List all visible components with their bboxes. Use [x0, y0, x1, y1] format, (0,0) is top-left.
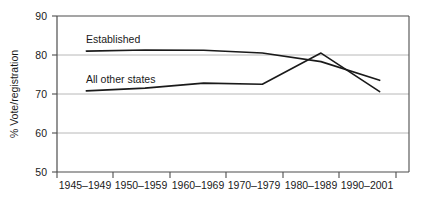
y-label-90: 90: [35, 10, 47, 22]
y-label-80: 80: [35, 49, 47, 61]
x-label-1980-1989: 1980–1989: [285, 179, 338, 191]
y-label-60: 60: [35, 127, 47, 139]
y-label-50: 50: [35, 166, 47, 178]
y-label-70: 70: [35, 88, 47, 100]
series-annotation-all-other-states: All other states: [86, 73, 155, 85]
y-axis-title: % Vote/registration: [8, 50, 20, 138]
y-tick-marks: [52, 16, 57, 172]
x-tick-marks: [57, 172, 396, 178]
x-label-1950-1959: 1950–1959: [115, 179, 168, 191]
x-label-1990-2001: 1990–2001: [341, 179, 394, 191]
x-label-1960-1969: 1960–1969: [172, 179, 225, 191]
x-axis-tick-labels: 1945–1949 1950–1959 1960–1969 1970–1979 …: [59, 179, 394, 191]
series-annotation-established: Established: [86, 33, 140, 45]
x-label-1970-1979: 1970–1979: [228, 179, 281, 191]
line-chart: 90 80 70 60 50 % Vote/registration 1945–…: [0, 0, 438, 201]
y-axis-tick-labels: 90 80 70 60 50: [35, 10, 47, 178]
x-label-1945-1949: 1945–1949: [59, 179, 112, 191]
chart-container: 90 80 70 60 50 % Vote/registration 1945–…: [0, 0, 438, 201]
